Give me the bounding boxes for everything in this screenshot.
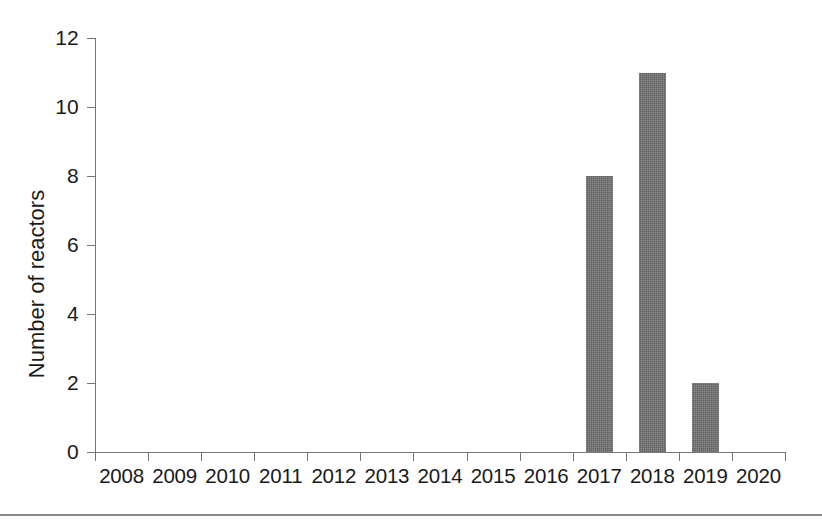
y-axis-tick (87, 452, 95, 453)
bar-chart-figure: Number of reactors 024681012 20082009201… (0, 0, 822, 524)
y-axis-tick-label-wrap: 2 (0, 372, 79, 393)
y-axis-tick (87, 383, 95, 384)
x-axis-tick-label: 2018 (626, 464, 679, 488)
y-axis-tick-label: 6 (19, 234, 79, 255)
x-axis-line (95, 452, 786, 453)
x-axis-tick (148, 452, 149, 461)
x-axis-tick-label: 2009 (148, 464, 201, 488)
y-axis-tick-label-wrap: 8 (0, 165, 79, 186)
y-axis-tick-label-wrap: 6 (0, 234, 79, 255)
y-axis-tick-label: 10 (19, 96, 79, 117)
x-axis-tick-label: 2017 (573, 464, 626, 488)
x-axis-tick-label: 2013 (360, 464, 413, 488)
y-axis-tick-label-wrap: 0 (0, 441, 79, 462)
x-axis-tick-label: 2015 (467, 464, 520, 488)
x-axis-tick-label: 2016 (520, 464, 573, 488)
x-axis-tick (467, 452, 468, 461)
x-axis-tick (307, 452, 308, 461)
x-axis-tick (785, 452, 786, 461)
x-axis-tick (201, 452, 202, 461)
y-axis-tick (87, 314, 95, 315)
y-axis-tick-label-wrap: 10 (0, 96, 79, 117)
x-axis-tick-label: 2011 (254, 464, 307, 488)
x-axis-tick (413, 452, 414, 461)
y-axis-tick-label: 2 (19, 372, 79, 393)
bar (586, 176, 613, 452)
x-axis-tick (254, 452, 255, 461)
y-axis-tick-label: 4 (19, 303, 79, 324)
x-axis-tick (95, 452, 96, 461)
x-axis-tick-label: 2019 (679, 464, 732, 488)
x-axis-tick-label: 2014 (413, 464, 466, 488)
y-axis-tick-label: 12 (19, 27, 79, 48)
y-axis-tick (87, 176, 95, 177)
bottom-divider (0, 514, 822, 516)
x-axis-tick (679, 452, 680, 461)
bar (639, 73, 666, 453)
x-axis-tick (573, 452, 574, 461)
y-axis-tick (87, 38, 95, 39)
x-axis-tick (626, 452, 627, 461)
x-axis-tick (732, 452, 733, 461)
x-axis-tick (520, 452, 521, 461)
x-axis-tick-label: 2020 (732, 464, 785, 488)
x-axis-tick (360, 452, 361, 461)
x-axis-tick-label: 2008 (95, 464, 148, 488)
bar (692, 383, 719, 452)
y-axis-tick-label: 0 (19, 441, 79, 462)
y-axis-tick-label: 8 (19, 165, 79, 186)
y-axis-tick-label-wrap: 4 (0, 303, 79, 324)
y-axis-line (95, 38, 96, 452)
y-axis-tick (87, 245, 95, 246)
y-axis-tick-label-wrap: 12 (0, 27, 79, 48)
x-axis-tick-label: 2012 (307, 464, 360, 488)
x-axis-tick-label: 2010 (201, 464, 254, 488)
y-axis-title: Number of reactors (22, 77, 52, 491)
y-axis-tick (87, 107, 95, 108)
